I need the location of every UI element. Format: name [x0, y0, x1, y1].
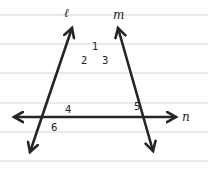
diagram-canvas: ℓ m n 1 2 3 4 5 6	[0, 0, 208, 169]
line-l	[30, 28, 72, 152]
ruled-paper-lines	[0, 15, 208, 161]
angle-label-2: 2	[81, 55, 87, 66]
line-label-m: m	[113, 8, 124, 22]
angle-label-1: 1	[92, 41, 98, 52]
line-label-n: n	[182, 110, 190, 124]
angle-label-6: 6	[51, 122, 57, 133]
angle-label-5: 5	[134, 101, 140, 112]
angle-label-3: 3	[102, 55, 108, 66]
line-label-l: ℓ	[64, 6, 69, 20]
transversal-diagram: ℓ m n 1 2 3 4 5 6	[0, 0, 208, 169]
angle-label-4: 4	[65, 104, 71, 115]
